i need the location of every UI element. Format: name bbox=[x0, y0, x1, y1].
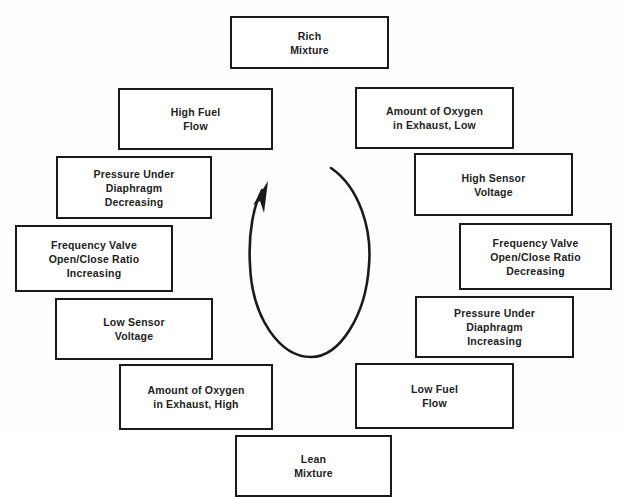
box-label: High Fuel Flow bbox=[171, 105, 221, 133]
box-label: Pressure Under Diaphragm Decreasing bbox=[93, 167, 174, 209]
box-pressure-increasing: Pressure Under Diaphragm Increasing bbox=[415, 296, 574, 358]
box-label: Pressure Under Diaphragm Increasing bbox=[454, 306, 535, 348]
box-low-fuel-flow: Low Fuel Flow bbox=[355, 363, 514, 429]
box-label: Frequency Valve Open/Close Ratio Decreas… bbox=[490, 236, 581, 278]
box-label: Lean Mixture bbox=[294, 452, 333, 480]
box-label: High Sensor Voltage bbox=[461, 171, 525, 199]
box-high-sensor-voltage: High Sensor Voltage bbox=[414, 153, 573, 216]
box-low-sensor-voltage: Low Sensor Voltage bbox=[55, 298, 213, 360]
box-lean-mixture: Lean Mixture bbox=[235, 435, 392, 497]
box-high-fuel-flow: High Fuel Flow bbox=[118, 88, 273, 150]
box-frequency-increasing: Frequency Valve Open/Close Ratio Increas… bbox=[15, 225, 173, 292]
box-pressure-decreasing: Pressure Under Diaphragm Decreasing bbox=[56, 156, 212, 219]
box-amount-oxygen-low: Amount of Oxygen in Exhaust, Low bbox=[355, 87, 514, 149]
box-amount-oxygen-high: Amount of Oxygen in Exhaust, High bbox=[119, 364, 273, 430]
box-label: Frequency Valve Open/Close Ratio Increas… bbox=[49, 238, 140, 280]
box-label: Amount of Oxygen in Exhaust, Low bbox=[386, 104, 483, 132]
box-label: Amount of Oxygen in Exhaust, High bbox=[147, 383, 244, 411]
box-frequency-decreasing: Frequency Valve Open/Close Ratio Decreas… bbox=[459, 223, 612, 290]
box-rich-mixture: Rich Mixture bbox=[230, 16, 389, 69]
box-label: Rich Mixture bbox=[290, 29, 329, 57]
box-label: Low Fuel Flow bbox=[411, 382, 458, 410]
box-label: Low Sensor Voltage bbox=[103, 315, 165, 343]
